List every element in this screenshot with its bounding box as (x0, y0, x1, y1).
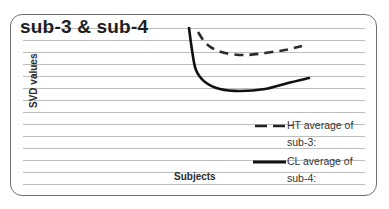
series-ht-sub-3 (198, 32, 302, 55)
legend-label-line2: sub-4: (287, 170, 316, 187)
legend-label-line1: HT average of (287, 117, 353, 134)
legend-label-line1: CL average of (287, 153, 353, 170)
legend-label-line2: sub-3: (287, 134, 316, 151)
plot-area (0, 0, 389, 209)
series-cl-sub-4 (189, 28, 309, 91)
